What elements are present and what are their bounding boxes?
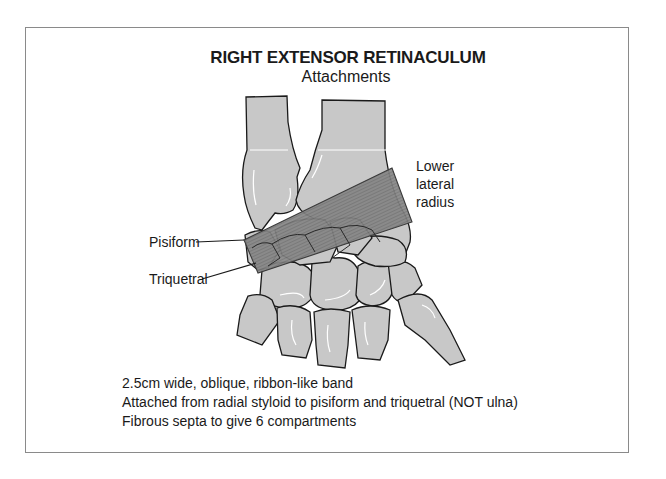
label-triquetral: Triquetral <box>149 270 208 288</box>
label-line: lateral <box>416 175 476 193</box>
note-line: Attached from radial styloid to pisiform… <box>122 393 518 412</box>
label-line: Lower <box>416 157 476 175</box>
ulna-bone <box>243 96 300 230</box>
note-line: Fibrous septa to give 6 compartments <box>122 412 518 431</box>
note-line: 2.5cm wide, oblique, ribbon-like band <box>122 374 518 393</box>
label-line: radius <box>416 193 476 211</box>
triquetral-leader-line <box>202 263 256 279</box>
label-pisiform: Pisiform <box>149 233 200 251</box>
pisiform-leader-line <box>196 240 244 242</box>
notes-list: 2.5cm wide, oblique, ribbon-like band At… <box>122 374 518 431</box>
label-lower-lateral-radius: Lower lateral radius <box>416 157 476 211</box>
